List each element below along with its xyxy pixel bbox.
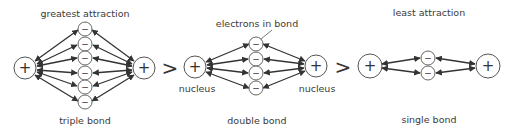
- diagram-canvas: + + − − − − − − greatest attraction trip…: [0, 0, 510, 132]
- minus-icon: −: [81, 82, 89, 92]
- electrons-in-bond-label: electrons in bond: [216, 18, 298, 29]
- minus-icon: −: [252, 68, 260, 78]
- electron: −: [78, 95, 92, 109]
- plus-icon: +: [189, 58, 202, 76]
- double-left-nucleus: +: [184, 56, 206, 78]
- electron: −: [249, 52, 263, 66]
- minus-icon: −: [424, 53, 432, 63]
- single-left-nucleus: +: [358, 54, 382, 78]
- minus-icon: −: [81, 53, 89, 63]
- minus-icon: −: [81, 39, 89, 49]
- plus-icon: +: [364, 57, 377, 75]
- double-electrons: − − − −: [249, 37, 263, 95]
- plus-icon: +: [138, 59, 151, 77]
- minus-icon: −: [424, 68, 432, 78]
- bond-strength-diagram: + + − − − − − − greatest attraction trip…: [0, 0, 510, 132]
- electron: −: [421, 51, 435, 65]
- minus-icon: −: [81, 68, 89, 78]
- nucleus-label-right: nucleus: [299, 83, 336, 94]
- plus-icon: +: [482, 57, 495, 75]
- triple-right-nucleus: +: [133, 57, 155, 79]
- minus-icon: −: [81, 24, 89, 34]
- single-bond-panel: + + − − least attraction single bond: [358, 7, 500, 125]
- plus-icon: +: [310, 57, 323, 75]
- electrons-leader-line: [261, 30, 272, 39]
- single-bond-label: single bond: [401, 114, 456, 125]
- minus-icon: −: [252, 54, 260, 64]
- electron: −: [249, 81, 263, 95]
- triple-bond-panel: + + − − − − − − greatest attraction trip…: [14, 8, 155, 126]
- triple-bond-label: triple bond: [59, 115, 111, 126]
- electron: −: [421, 66, 435, 80]
- single-right-nucleus: +: [476, 54, 500, 78]
- greatest-attraction-label: greatest attraction: [40, 8, 129, 19]
- single-electrons: − −: [421, 51, 435, 80]
- plus-icon: +: [19, 59, 32, 77]
- electron: −: [78, 66, 92, 80]
- double-right-nucleus: +: [305, 55, 327, 77]
- electron: −: [78, 22, 92, 36]
- least-attraction-label: least attraction: [393, 7, 465, 18]
- minus-icon: −: [81, 97, 89, 107]
- nucleus-label-left: nucleus: [179, 83, 216, 94]
- electron: −: [249, 37, 263, 51]
- minus-icon: −: [252, 83, 260, 93]
- double-bond-panel: + + − − − − electrons in bond nucleus nu…: [179, 18, 336, 126]
- minus-icon: −: [252, 39, 260, 49]
- triple-left-nucleus: +: [14, 57, 36, 79]
- double-bond-label: double bond: [227, 115, 286, 126]
- electron: −: [78, 80, 92, 94]
- electron: −: [78, 51, 92, 65]
- electron: −: [78, 37, 92, 51]
- greater-than-symbol: >: [162, 56, 179, 80]
- triple-electrons: − − − − − −: [78, 22, 92, 109]
- electron: −: [249, 66, 263, 80]
- greater-than-symbol: >: [335, 55, 352, 79]
